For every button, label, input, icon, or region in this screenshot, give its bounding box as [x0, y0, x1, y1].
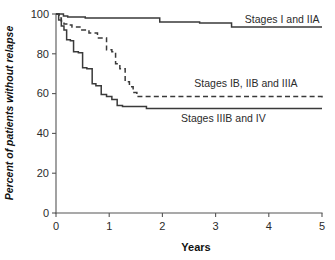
- y-tick-label: 60: [37, 87, 49, 99]
- x-tick-label: 4: [266, 220, 272, 232]
- y-tick-label: 20: [37, 167, 49, 179]
- y-tick-label: 40: [37, 127, 49, 139]
- x-tick-label: 3: [213, 220, 219, 232]
- x-axis-ticks: 012345: [53, 213, 325, 232]
- x-tick-label: 1: [106, 220, 112, 232]
- series-label-2: Stages IIIB and IV: [181, 112, 266, 124]
- series-curve-2: [56, 14, 322, 109]
- series-label-0: Stages I and IIA: [245, 13, 320, 25]
- x-tick-label: 2: [159, 220, 165, 232]
- series-label-1: Stages IB, IIB and IIIA: [194, 77, 297, 89]
- series-curves: [56, 14, 322, 109]
- y-tick-label: 80: [37, 48, 49, 60]
- x-tick-label: 0: [53, 220, 59, 232]
- y-tick-label: 100: [31, 8, 49, 20]
- x-axis-title: Years: [181, 241, 210, 253]
- x-tick-label: 5: [319, 220, 325, 232]
- y-axis-title: Percent of patients without relapse: [3, 26, 15, 201]
- series-labels: Stages I and IIAStages IB, IIB and IIIAS…: [181, 13, 320, 125]
- y-axis-ticks: 020406080100: [31, 8, 56, 219]
- y-tick-label: 0: [43, 207, 49, 219]
- kaplan-meier-figure: 020406080100 012345 Stages I and IIAStag…: [0, 0, 335, 260]
- chart-canvas: 020406080100 012345 Stages I and IIAStag…: [0, 0, 335, 260]
